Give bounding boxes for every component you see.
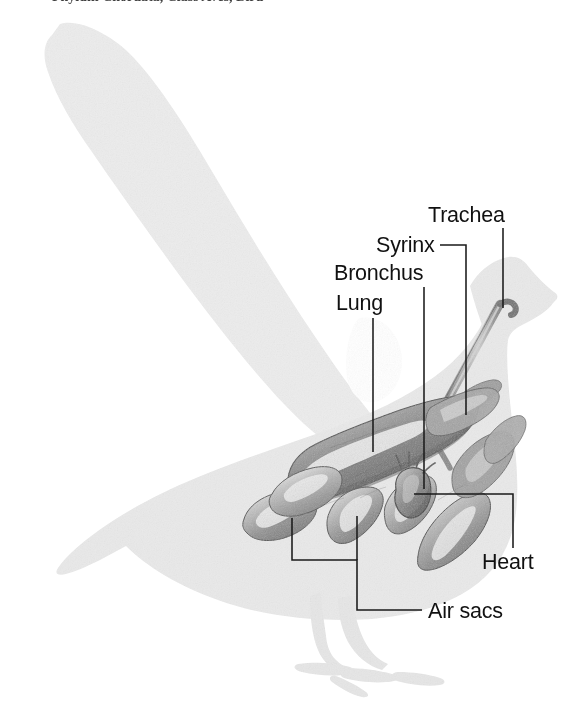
diagram-canvas: Trachea Syrinx Bronchus Lung Heart Air s…	[0, 0, 577, 711]
label-trachea: Trachea	[428, 203, 505, 227]
label-lung: Lung	[336, 291, 383, 315]
label-bronchus: Bronchus	[334, 261, 423, 285]
wing-silhouette	[45, 23, 400, 462]
bird-silhouette	[45, 23, 558, 697]
label-air-sacs: Air sacs	[428, 599, 503, 623]
wing-root-notch	[346, 318, 402, 403]
bird-respiratory-diagram: Phylum Chordata, Class Aves, Bird	[0, 0, 577, 711]
label-syrinx: Syrinx	[376, 233, 435, 257]
label-heart: Heart	[482, 550, 534, 574]
